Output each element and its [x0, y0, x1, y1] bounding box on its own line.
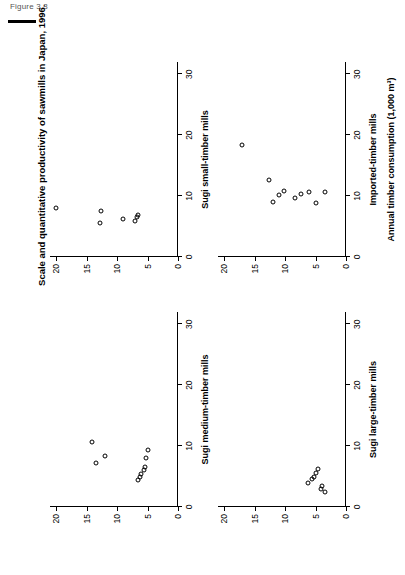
y-tick: [117, 507, 118, 511]
x-tick: [178, 256, 182, 257]
x-tick: [346, 195, 350, 196]
data-point: [102, 453, 107, 458]
panel-sugi-large-timber-mills: 051015200102030: [218, 312, 346, 507]
x-tick: [346, 134, 350, 135]
x-tick-label: 0: [185, 255, 194, 260]
x-tick: [346, 323, 350, 324]
y-tick-label: 5: [311, 264, 320, 269]
x-tick-label: 20: [353, 380, 362, 389]
x-tick-label: 30: [353, 319, 362, 328]
x-tick-label: 10: [185, 441, 194, 450]
y-tick-label: 10: [281, 514, 290, 523]
x-tick: [346, 256, 350, 257]
y-tick-label: 15: [250, 264, 259, 273]
y-tick: [224, 257, 225, 261]
y-tick: [87, 257, 88, 261]
y-tick-label: 20: [220, 514, 229, 523]
data-point: [240, 142, 245, 147]
x-tick: [346, 445, 350, 446]
data-point: [143, 464, 148, 469]
data-point: [97, 220, 102, 225]
y-tick-label: 20: [52, 264, 61, 273]
y-tick-label: 0: [174, 264, 183, 269]
data-point: [281, 188, 286, 193]
y-tick: [87, 507, 88, 511]
data-point: [145, 447, 150, 452]
data-point: [320, 484, 325, 489]
data-point: [305, 481, 310, 486]
y-tick: [285, 507, 286, 511]
data-point: [307, 190, 312, 195]
y-tick: [56, 257, 57, 261]
panel-title: Imported-timber mills: [368, 113, 378, 205]
data-point: [314, 470, 319, 475]
scatter-plot-block: 051015200102030 051015200102030 05101520…: [28, 27, 378, 547]
data-point: [54, 206, 59, 211]
y-tick-label: 10: [281, 264, 290, 273]
y-tick: [148, 257, 149, 261]
y-tick: [178, 257, 179, 261]
data-point: [144, 455, 149, 460]
y-tick-label: 20: [52, 514, 61, 523]
y-tick-label: 10: [113, 514, 122, 523]
y-tick-label: 0: [342, 264, 351, 269]
y-tick: [316, 257, 317, 261]
x-tick-label: 10: [185, 191, 194, 200]
data-point: [267, 177, 272, 182]
y-tick: [56, 507, 57, 511]
y-tick-label: 10: [113, 264, 122, 273]
y-tick: [346, 257, 347, 261]
y-tick-label: 5: [143, 264, 152, 269]
y-axis-line: [218, 256, 346, 257]
y-tick: [316, 507, 317, 511]
x-tick: [178, 445, 182, 446]
x-tick: [178, 195, 182, 196]
y-tick-label: 0: [342, 514, 351, 519]
figure-page: Figure 3.3 Scale and quantitative produc…: [0, 0, 405, 575]
x-tick-label: 30: [185, 69, 194, 78]
data-point: [90, 440, 95, 445]
x-axis-line: [177, 62, 178, 257]
x-tick: [178, 506, 182, 507]
y-tick: [255, 507, 256, 511]
x-axis-line: [345, 62, 346, 257]
x-tick: [346, 384, 350, 385]
panel-title: Sugi small-timber mills: [200, 110, 210, 209]
header-rule: [8, 20, 36, 23]
x-axis-line: [177, 312, 178, 507]
x-tick: [178, 384, 182, 385]
x-tick: [178, 323, 182, 324]
data-point: [323, 490, 328, 495]
y-tick: [346, 507, 347, 511]
y-tick-label: 5: [311, 514, 320, 519]
x-tick-label: 0: [353, 255, 362, 260]
panel-sugi-small-timber-mills: 051015200102030: [50, 62, 178, 257]
panel-sugi-medium-timber-mills: 051015200102030: [50, 312, 178, 507]
panel-title: Sugi large-timber mills: [368, 361, 378, 458]
data-point: [99, 208, 104, 213]
y-tick: [224, 507, 225, 511]
y-tick-label: 5: [143, 514, 152, 519]
y-tick-label: 15: [82, 514, 91, 523]
data-point: [271, 199, 276, 204]
x-tick-label: 0: [353, 505, 362, 510]
x-tick-label: 10: [353, 441, 362, 450]
x-tick-label: 10: [353, 191, 362, 200]
y-axis-line: [218, 506, 346, 507]
y-tick-label: 20: [220, 264, 229, 273]
data-point: [315, 466, 320, 471]
x-tick-label: 20: [185, 380, 194, 389]
data-point: [292, 195, 297, 200]
y-tick-label: 15: [82, 264, 91, 273]
panel-title: Sugi medium-timber mills: [200, 354, 210, 464]
y-axis-line: [50, 256, 178, 257]
x-tick-label: 0: [185, 505, 194, 510]
data-point: [121, 216, 126, 221]
data-point: [276, 192, 281, 197]
x-tick-label: 30: [185, 319, 194, 328]
panel-imported-timber-mills: 051015200102030: [218, 62, 346, 257]
x-axis-line: [345, 312, 346, 507]
y-axis-line: [50, 506, 178, 507]
data-point: [322, 190, 327, 195]
x-tick-label: 30: [353, 69, 362, 78]
